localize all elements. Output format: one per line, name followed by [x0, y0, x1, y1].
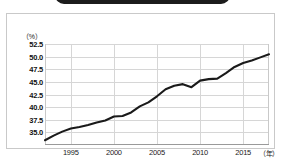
x-tick-label: 2015 — [235, 148, 251, 157]
y-tick-label: 52.5 — [29, 40, 43, 49]
y-tick-label: 50.0 — [29, 52, 43, 61]
y-tick-label: 40.0 — [29, 103, 43, 112]
title-banner — [55, 0, 230, 4]
data-series-line — [45, 44, 269, 145]
x-tick-label: 2000 — [106, 148, 122, 157]
chart-screenshot: （%） 52.5 50.0 47.5 45.0 42.5 40.0 37.5 3… — [0, 0, 283, 158]
x-axis-unit-label: （年） — [259, 148, 279, 158]
y-tick-label: 45.0 — [29, 77, 43, 86]
y-axis-tick-labels: 52.5 50.0 47.5 45.0 42.5 40.0 37.5 35.0 — [15, 44, 43, 145]
y-tick-label: 35.0 — [29, 128, 43, 137]
plot-area — [45, 44, 269, 145]
y-tick-label: 47.5 — [29, 65, 43, 74]
x-tick-label: 2005 — [149, 148, 165, 157]
x-tick-label: 2010 — [192, 148, 208, 157]
figure-frame: （%） 52.5 50.0 47.5 45.0 42.5 40.0 37.5 3… — [6, 13, 275, 149]
y-tick-label: 37.5 — [29, 115, 43, 124]
x-tick-label: 1995 — [63, 148, 79, 157]
y-tick-label: 42.5 — [29, 90, 43, 99]
